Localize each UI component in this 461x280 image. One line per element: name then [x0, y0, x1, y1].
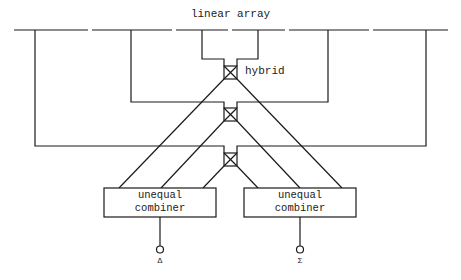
sigma-label: Σ: [290, 256, 310, 265]
hybrid-bottom: [224, 153, 237, 166]
diagram-lines: [0, 0, 461, 280]
combiner-right-label: unequal combiner: [244, 189, 356, 215]
sigma-port: [297, 217, 304, 253]
diagram-title: linear array: [0, 8, 461, 20]
combiner-right-line2: combiner: [244, 202, 356, 215]
combiner-left-label: unequal combiner: [104, 189, 216, 215]
delta-port: [157, 217, 164, 253]
hybrid-middle: [224, 108, 237, 121]
difference-feeds: [119, 79, 224, 188]
combiner-left-line2: combiner: [104, 202, 216, 215]
delta-label: Δ: [150, 256, 170, 265]
sum-feeds: [237, 79, 342, 188]
hybrid-label: hybrid: [245, 65, 285, 77]
inner-pair-feed: [202, 30, 258, 66]
diagram-canvas: linear array hybrid unequal combiner une…: [0, 0, 461, 280]
outer-pair-feed: [35, 30, 426, 153]
combiner-right-line1: unequal: [244, 189, 356, 202]
hybrid-top: [224, 66, 237, 79]
combiner-left-line1: unequal: [104, 189, 216, 202]
